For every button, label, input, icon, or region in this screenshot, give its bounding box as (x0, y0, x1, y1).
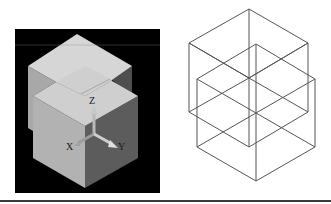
z-axis-label: Z (89, 95, 95, 106)
lower-wire-cube (197, 44, 315, 181)
y-axis-label: Y (118, 141, 125, 152)
x-axis-label: X (66, 141, 74, 152)
bottom-rule (0, 200, 331, 202)
figure-canvas: Z X Y (0, 0, 331, 204)
upper-wire-cube (189, 9, 308, 147)
wireframe (189, 9, 315, 181)
shaded-solid (15, 34, 160, 188)
